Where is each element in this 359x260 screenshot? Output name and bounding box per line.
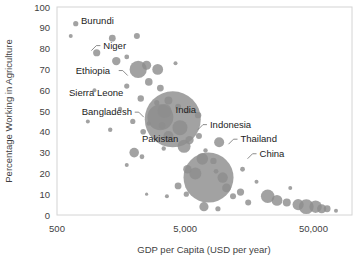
data-bubble	[324, 205, 331, 212]
x-axis-title: GDP per Capita (USD per year)	[137, 244, 270, 255]
x-tick-label: 500	[49, 223, 65, 234]
data-point-labels: BurundiNigerEthiopiaSierra LeoneBanglade…	[69, 15, 285, 159]
country-label: Bangladesh	[82, 106, 132, 117]
data-bubble	[129, 148, 139, 158]
y-tick-label: 60	[39, 85, 50, 96]
data-bubble	[124, 83, 129, 88]
data-bubble	[203, 148, 207, 152]
y-tick-label: 0	[45, 210, 50, 221]
y-tick-label: 80	[39, 43, 50, 54]
y-tick-label: 10	[39, 189, 50, 200]
data-bubble	[165, 194, 169, 198]
data-bubble	[73, 21, 78, 26]
data-bubble	[230, 193, 236, 199]
data-bubble	[240, 167, 245, 172]
y-tick-label: 20	[39, 168, 50, 179]
country-label: India	[176, 104, 197, 115]
country-label: Sierra Leone	[69, 87, 123, 98]
y-tick-label: 100	[34, 2, 50, 13]
data-bubble	[214, 137, 224, 147]
data-bubble	[145, 193, 148, 196]
country-label: Pakistan	[142, 133, 178, 144]
y-axis-title: Percentage Working in Agriculture	[3, 39, 14, 182]
data-bubble	[86, 119, 90, 123]
data-bubble	[134, 33, 140, 39]
y-tick-label: 40	[39, 126, 50, 137]
data-bubble	[69, 34, 73, 38]
data-bubble	[196, 133, 202, 139]
data-bubble	[245, 200, 251, 206]
country-label: Ethiopia	[76, 65, 111, 76]
data-bubble	[217, 172, 227, 182]
x-tick-label: 50,000	[299, 223, 328, 234]
data-bubble	[183, 165, 191, 173]
data-bubble	[130, 61, 147, 78]
x-tick-label: 5,000	[173, 223, 197, 234]
data-bubble	[140, 154, 145, 159]
y-tick-label: 30	[39, 147, 50, 158]
data-bubble	[124, 55, 129, 60]
x-axis-tick-labels: 5005,00050,000	[49, 223, 328, 234]
leader-line	[119, 71, 128, 76]
data-bubble	[184, 192, 189, 197]
country-label: Burundi	[81, 15, 114, 26]
data-bubble	[162, 146, 166, 150]
data-bubble	[93, 49, 100, 56]
data-bubble	[130, 119, 135, 124]
data-bubble	[199, 202, 208, 211]
data-bubble	[152, 64, 163, 75]
leader-line	[229, 139, 238, 144]
data-bubble	[288, 186, 292, 190]
data-bubble	[283, 199, 291, 207]
data-bubble	[158, 104, 172, 118]
leader-line	[135, 112, 144, 117]
y-tick-label: 90	[39, 22, 50, 33]
data-bubble	[222, 184, 231, 193]
bubble-chart: BurundiNigerEthiopiaSierra LeoneBanglade…	[0, 0, 359, 260]
data-bubble	[255, 180, 259, 184]
y-tick-label: 70	[39, 64, 50, 75]
data-bubble	[237, 189, 244, 196]
country-label: Indonesia	[210, 119, 252, 130]
data-bubble	[215, 206, 220, 211]
country-label: Niger	[103, 40, 126, 51]
data-bubble	[185, 136, 193, 144]
leader-line	[248, 154, 257, 159]
country-label: China	[260, 148, 286, 159]
data-bubble	[112, 57, 120, 65]
data-bubble	[145, 78, 153, 86]
data-bubble	[272, 195, 283, 206]
data-bubble	[175, 182, 182, 189]
y-axis-tick-labels: 0102030405060708090100	[34, 2, 50, 221]
y-tick-label: 50	[39, 106, 50, 117]
data-bubble	[174, 61, 178, 65]
data-bubble	[334, 209, 338, 213]
data-bubble	[108, 128, 112, 132]
chart-canvas: BurundiNigerEthiopiaSierra LeoneBanglade…	[0, 0, 359, 260]
country-label: Thailand	[241, 133, 277, 144]
data-bubble	[138, 95, 144, 101]
data-bubble	[125, 163, 129, 167]
data-bubble	[157, 85, 164, 92]
